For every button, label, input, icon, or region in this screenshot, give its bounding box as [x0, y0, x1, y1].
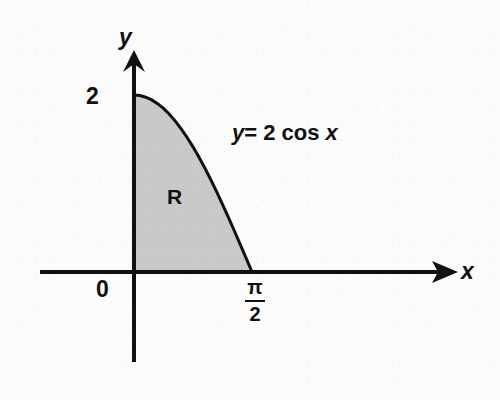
x-axis-tick-label-pi-over-2: π 2	[241, 277, 269, 325]
equation-variable-x: x	[326, 120, 338, 145]
fraction-denominator: 2	[241, 304, 269, 325]
fraction-bar	[245, 300, 265, 302]
y-axis-label: y	[119, 26, 132, 49]
y-axis-tick-label-2: 2	[86, 85, 99, 108]
equation-variable-y: y	[232, 120, 244, 145]
curve-equation-label: y= 2 cos x	[232, 122, 338, 144]
region-label-r: R	[167, 186, 182, 207]
equation-operator-text: = 2 cos	[244, 120, 325, 145]
coordinate-plane-graphic	[0, 0, 500, 400]
x-axis-label: x	[461, 260, 474, 283]
figure-canvas: y x 2 0 R y= 2 cos x π 2	[0, 0, 500, 400]
fraction-numerator: π	[241, 277, 269, 298]
origin-label: 0	[96, 278, 109, 301]
